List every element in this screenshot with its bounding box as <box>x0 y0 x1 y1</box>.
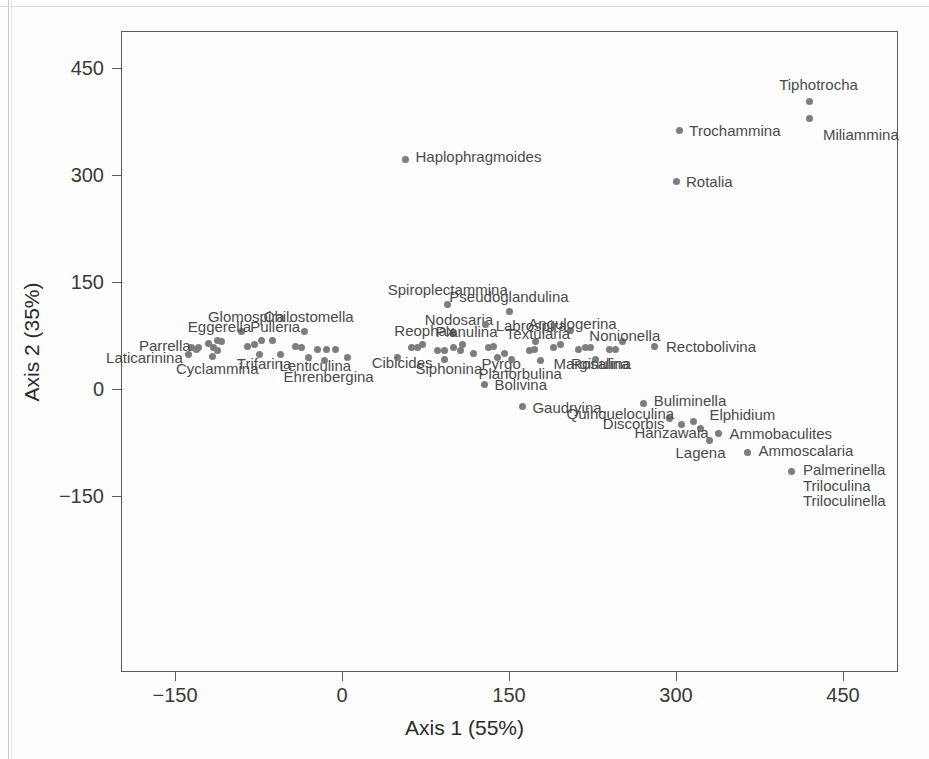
data-point <box>673 178 680 185</box>
data-point-label: Triloculinella <box>803 492 886 509</box>
data-point <box>459 341 466 348</box>
data-point <box>441 347 448 354</box>
data-point <box>323 346 330 353</box>
data-point <box>332 346 339 353</box>
data-point-label: Ammoscalaria <box>758 441 853 458</box>
y-tick-mark <box>112 282 121 283</box>
data-point-label: Triloculina <box>803 476 871 493</box>
data-point-label: Hanzawaia <box>634 423 708 440</box>
y-tick-mark <box>112 389 121 390</box>
data-point-label: Rectobolivina <box>666 338 756 355</box>
data-point-label: Pseudoglandulina <box>449 288 568 305</box>
data-point <box>195 344 202 351</box>
y-axis-title: Axis 2 (35%) <box>20 222 44 462</box>
data-point <box>676 127 683 134</box>
y-tick-mark <box>112 68 121 69</box>
data-point <box>506 308 513 315</box>
data-point-label: Lagena <box>675 443 725 460</box>
y-tick-label: 300 <box>71 164 104 187</box>
y-tick-label: 450 <box>71 57 104 80</box>
figure-page: −15001503004504503001500−150 Tiphotrocha… <box>0 0 929 759</box>
y-tick-label: −150 <box>59 485 104 508</box>
data-point <box>587 344 594 351</box>
data-point <box>470 350 477 357</box>
data-point-label: Planulina <box>436 323 498 340</box>
data-point <box>537 357 544 364</box>
x-tick-mark <box>676 672 677 681</box>
data-point-label: Siphonina <box>416 359 483 376</box>
data-point <box>612 346 619 353</box>
x-tick-label: 0 <box>336 684 347 707</box>
scan-edge-line-secondary <box>11 0 12 759</box>
y-tick-mark <box>112 496 121 497</box>
data-point <box>244 343 251 350</box>
data-point-label: Textularia <box>506 325 570 342</box>
data-point <box>508 356 515 363</box>
data-point-label: Eggerella <box>188 318 251 335</box>
data-point-label: Ammobaculites <box>729 425 832 442</box>
data-point-label: Nonionella <box>589 326 660 343</box>
data-point <box>457 347 464 354</box>
data-point <box>314 346 321 353</box>
y-tick-label: 0 <box>93 378 104 401</box>
data-point <box>481 381 488 388</box>
data-point <box>557 341 564 348</box>
plot-area <box>121 31 898 672</box>
data-point-label: Rotalia <box>686 173 733 190</box>
x-tick-mark <box>509 672 510 681</box>
x-tick-label: 450 <box>826 684 859 707</box>
data-point-label: Trochammina <box>689 122 780 139</box>
data-point-label: Ehrenbergina <box>284 368 374 385</box>
data-point <box>490 343 497 350</box>
data-point-label: Haplophragmoides <box>415 148 541 165</box>
data-point-label: Tiphotrocha <box>779 76 858 93</box>
x-tick-label: 300 <box>659 684 692 707</box>
data-point-label: Pulleria <box>250 318 300 335</box>
scan-edge-line-top <box>0 6 929 7</box>
x-axis-title: Axis 1 (55%) <box>0 716 929 740</box>
data-point <box>419 341 426 348</box>
x-tick-mark <box>342 672 343 681</box>
data-point-label: Bolivina <box>495 376 548 393</box>
data-point-label: Elphidium <box>709 405 775 422</box>
x-tick-label: −150 <box>152 684 197 707</box>
data-point <box>531 346 538 353</box>
data-point <box>402 156 409 163</box>
data-point <box>321 357 328 364</box>
data-point <box>715 430 722 437</box>
data-point <box>575 346 582 353</box>
data-point <box>744 449 751 456</box>
y-tick-mark <box>112 175 121 176</box>
data-point-label: Rosalina <box>571 355 629 372</box>
data-point-label: Miliammina <box>823 125 899 142</box>
data-point <box>450 344 457 351</box>
data-point-label: Laticarinina <box>106 348 183 365</box>
data-point <box>251 341 258 348</box>
x-tick-mark <box>843 672 844 681</box>
data-point-label: Palmerinella <box>803 460 886 477</box>
y-tick-label: 150 <box>71 271 104 294</box>
scan-edge-line <box>8 0 9 759</box>
x-tick-label: 150 <box>492 684 525 707</box>
x-tick-mark <box>175 672 176 681</box>
data-point <box>214 337 221 344</box>
